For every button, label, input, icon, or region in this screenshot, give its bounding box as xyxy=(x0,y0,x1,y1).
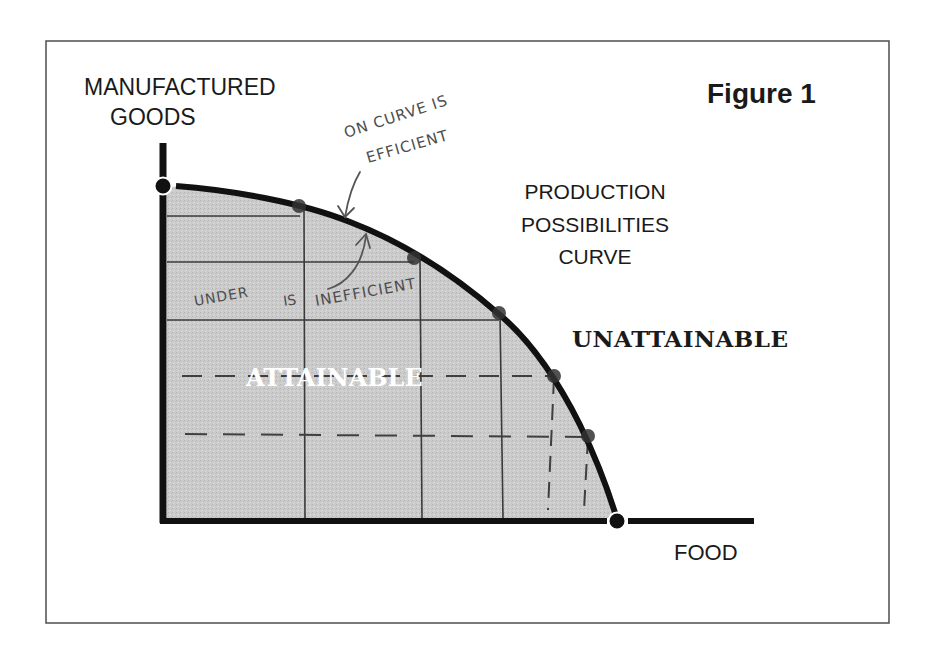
curve-point xyxy=(581,429,595,443)
y-axis-label-line2: GOODS xyxy=(110,104,196,130)
curve-label-line1: PRODUCTION xyxy=(524,180,665,203)
annotation-under-word2: IS xyxy=(282,291,297,309)
curve-endpoint-y xyxy=(155,178,172,195)
unattainable-label: UNATTAINABLE xyxy=(572,325,788,352)
attainable-label: ATTAINABLE xyxy=(245,363,423,392)
curve-endpoint-x xyxy=(609,513,626,530)
figure-title: Figure 1 xyxy=(707,78,816,109)
curve-point xyxy=(407,251,421,265)
annotation-on-curve-line2: EFFICIENT xyxy=(364,126,451,167)
curve-point xyxy=(547,369,561,383)
curve-point xyxy=(492,306,506,320)
curve-label-line3: CURVE xyxy=(558,245,631,268)
ppc-figure: MANUFACTURED GOODS Figure 1 PRODUCTION P… xyxy=(0,0,930,666)
curve-label: PRODUCTION POSSIBILITIES CURVE xyxy=(521,180,669,268)
y-axis-label-line1: MANUFACTURED xyxy=(84,74,276,100)
curve-label-line2: POSSIBILITIES xyxy=(521,213,669,236)
x-axis-label: FOOD xyxy=(674,540,738,565)
curve-point xyxy=(292,199,306,213)
